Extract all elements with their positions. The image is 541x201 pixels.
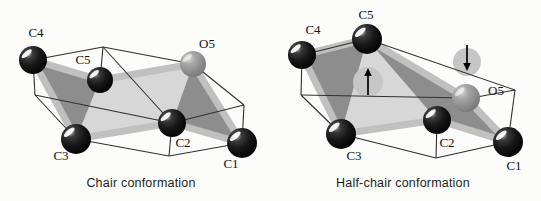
atom-label-c4: C4: [305, 22, 321, 37]
atom-label-c1: C1: [506, 158, 521, 173]
conformation-diagrams-svg: C4C5O5C3C2C1Chair conformationC4C5O5C3C2…: [0, 0, 541, 201]
atom-o5-sphere: [180, 51, 206, 77]
atom-label-o5: O5: [488, 83, 504, 98]
atom-label-c3: C3: [346, 148, 361, 163]
atom-c4-sphere: [288, 41, 316, 69]
atom-label-c5: C5: [358, 7, 373, 22]
atom-label-o5: O5: [199, 36, 215, 51]
caption-chair: Chair conformation: [86, 176, 195, 190]
atom-c1-sphere: [493, 127, 523, 157]
atom-label-c1: C1: [223, 156, 238, 171]
caption-half-chair: Half-chair conformation: [336, 176, 470, 190]
atom-label-c4: C4: [28, 25, 44, 40]
atom-c4-sphere: [19, 46, 47, 74]
atom-label-c2: C2: [439, 135, 454, 150]
atom-label-c2: C2: [175, 135, 190, 150]
atom-c2-sphere: [158, 109, 186, 137]
atom-label-c5: C5: [75, 52, 90, 67]
atom-c5-sphere: [87, 67, 113, 93]
atom-c5-sphere: [352, 24, 382, 54]
atom-label-c3: C3: [53, 148, 68, 163]
conformation-figure: C4C5O5C3C2C1Chair conformationC4C5O5C3C2…: [0, 0, 541, 201]
atom-c1-sphere: [227, 128, 257, 158]
atom-o5-sphere: [452, 84, 480, 112]
atom-c2-sphere: [423, 106, 451, 134]
atom-c3-sphere: [326, 119, 356, 149]
